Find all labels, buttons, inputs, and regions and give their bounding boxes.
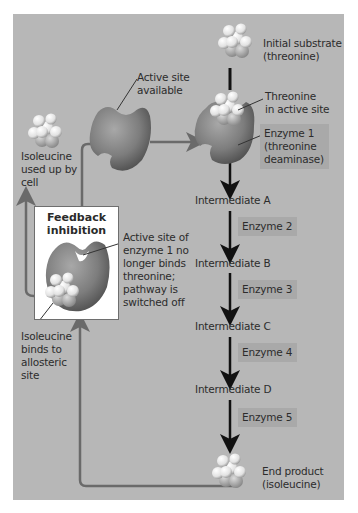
enzyme-active-site-available [90,107,151,171]
inhibited-active-site-label: Active site ofenzyme 1 nolonger bindsthr… [123,231,189,309]
isoleucine-used-molecule [28,114,62,149]
enzyme-1-label: Enzyme 1(threoninedeaminase) [260,124,329,169]
intermediate-d: Intermediate D [195,383,271,396]
enzyme-4-label: Enzyme 4 [238,343,297,362]
end-product-label: End product(isoleucine) [262,465,323,491]
isoleucine-used-label: Isoleucineused up bycell [21,150,77,189]
used-up-arrow-line [26,196,34,296]
enzyme-5-label: Enzyme 5 [238,408,297,427]
threonine-active-site-label: Threoninein active site [265,90,329,116]
return-line-to-available [82,144,96,206]
active-site-available-label: Active siteavailable [137,71,190,97]
intermediate-a: Intermediate A [195,194,270,207]
isoleucine-end-product-molecule [212,454,246,489]
feedback-line [80,322,238,486]
allosteric-site-label: Isoleucinebinds toallostericsite [21,330,72,382]
intermediate-c: Intermediate C [195,320,271,333]
enzyme-2-label: Enzyme 2 [238,217,297,236]
threonine-molecule [218,24,252,59]
feedback-inhibition-box: Feedback inhibition [34,206,119,320]
intermediate-b: Intermediate B [195,257,270,270]
enzyme-3-label: Enzyme 3 [238,280,297,299]
inhibited-enzyme-graphic [35,207,118,319]
initial-substrate-label: Initial substrate(threonine) [263,37,342,63]
